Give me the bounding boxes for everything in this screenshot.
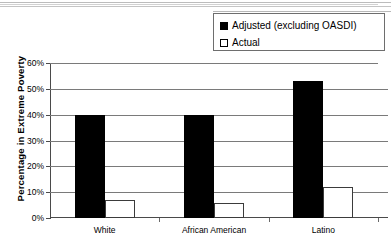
y-axis-tick-mark bbox=[46, 192, 50, 193]
y-axis-tick-labels: 0%10%20%30%40%50%60% bbox=[14, 55, 44, 218]
y-axis-tick-label: 10% bbox=[27, 188, 44, 197]
x-axis-tick-label: Latino bbox=[312, 225, 335, 235]
y-axis-tick-mark bbox=[46, 89, 50, 90]
scan-artifact-line bbox=[0, 2, 391, 3]
legend-label-actual: Actual bbox=[232, 37, 260, 48]
gridline bbox=[50, 63, 378, 64]
y-axis-tick-label: 40% bbox=[27, 110, 44, 119]
x-axis-tick-label: African American bbox=[182, 225, 246, 235]
legend-swatch-filled-square-icon bbox=[220, 22, 228, 30]
y-axis-tick-mark bbox=[46, 115, 50, 116]
x-axis-tick-mark bbox=[159, 218, 160, 222]
legend-swatch-outlined-square-icon bbox=[220, 39, 228, 47]
y-axis-tick-mark bbox=[46, 218, 50, 219]
y-axis-tick-label: 20% bbox=[27, 162, 44, 171]
y-axis-tick-mark bbox=[46, 166, 50, 167]
plot-area bbox=[50, 63, 378, 218]
bar-adjusted bbox=[184, 115, 214, 218]
chart-plot-wrapper: Percentage in Extreme Poverty 0%10%20%30… bbox=[0, 55, 391, 246]
bar-adjusted bbox=[293, 81, 323, 218]
x-axis-tick-labels: WhiteAfrican AmericanLatino bbox=[50, 225, 388, 241]
legend-label-adjusted: Adjusted (excluding OASDI) bbox=[232, 20, 357, 31]
x-axis-tick-mark bbox=[269, 218, 270, 222]
y-axis-tick-mark bbox=[46, 63, 50, 64]
x-axis-tick-mark bbox=[378, 218, 379, 222]
y-axis-tick-label: 60% bbox=[27, 59, 44, 68]
scan-artifact-line bbox=[0, 4, 378, 5]
x-axis-tick-label: White bbox=[94, 225, 116, 235]
bar-actual bbox=[105, 200, 135, 218]
legend-entry-adjusted: Adjusted (excluding OASDI) bbox=[220, 17, 384, 34]
chart-legend: Adjusted (excluding OASDI) Actual bbox=[213, 13, 385, 51]
y-axis-tick-label: 0% bbox=[32, 214, 44, 223]
y-axis-tick-label: 30% bbox=[27, 136, 44, 145]
bar-adjusted bbox=[75, 115, 105, 218]
y-axis-tick-label: 50% bbox=[27, 85, 44, 94]
gridline bbox=[50, 89, 388, 90]
bar-actual bbox=[323, 187, 353, 218]
bar-actual bbox=[214, 203, 244, 219]
legend-entry-actual: Actual bbox=[220, 34, 384, 51]
y-axis-tick-mark bbox=[46, 141, 50, 142]
scan-artifact-line bbox=[213, 11, 391, 12]
scan-artifact-line bbox=[0, 6, 391, 7]
